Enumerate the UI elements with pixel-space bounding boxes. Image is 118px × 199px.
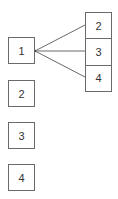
left-box-label: 4: [18, 172, 24, 184]
right-cell-label: 4: [95, 72, 101, 84]
right-stack: 2 3 4: [85, 12, 112, 92]
right-stack-cell-2: 2: [85, 12, 112, 39]
left-box-3: 3: [8, 122, 35, 149]
left-box-label: 3: [18, 130, 24, 142]
left-box-4: 4: [8, 164, 35, 191]
right-cell-label: 3: [95, 46, 101, 58]
left-box-1: 1: [8, 37, 35, 64]
right-stack-cell-4: 4: [85, 66, 112, 93]
right-cell-label: 2: [95, 20, 101, 32]
connector-1-to-4: [35, 51, 85, 77]
left-box-2: 2: [8, 80, 35, 107]
connector-1-to-2: [35, 25, 85, 51]
right-stack-cell-3: 3: [85, 39, 112, 66]
left-box-label: 2: [18, 88, 24, 100]
left-box-label: 1: [18, 45, 24, 57]
